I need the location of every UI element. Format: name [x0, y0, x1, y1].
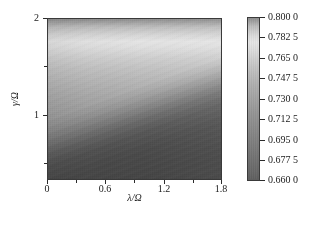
colorbar-tick-0-6775	[260, 160, 265, 161]
colorbar-tick-0-6600	[260, 180, 265, 181]
x-axis-title-text: λ/Ω	[127, 192, 141, 203]
ytick-0-5	[44, 163, 47, 164]
plot-area: 0 0.6 1.2 1.8 2 1	[47, 18, 222, 180]
colorbar-noise	[249, 19, 258, 179]
colorbar-label-0-7125: 0.712 5	[268, 114, 298, 124]
ytick-1-5	[44, 66, 47, 67]
colorbar-label-0-6950: 0.695 0	[268, 135, 298, 145]
ytick-label-2: 2	[34, 13, 39, 23]
y-axis-title: γ/Ω	[9, 92, 20, 106]
colorbar-tick-0-6950	[260, 140, 265, 141]
colorbar-tick-0-7825	[260, 37, 265, 38]
ytick-2	[43, 18, 47, 19]
colorbar-tick-0-8000	[260, 17, 265, 18]
xtick-0-9	[134, 180, 135, 183]
colorbar-gradient	[247, 17, 260, 181]
figure-heatmap: 0 0.6 1.2 1.8 2 1 λ/Ω γ/Ω 0.800 0 0.782 …	[0, 0, 311, 225]
xtick-0-3	[76, 180, 77, 183]
colorbar: 0.800 0 0.782 5 0.765 0 0.747 5 0.730 0 …	[247, 17, 260, 181]
ytick-1	[43, 115, 47, 116]
colorbar-label-0-6600: 0.660 0	[268, 175, 298, 185]
colorbar-label-0-7650: 0.765 0	[268, 53, 298, 63]
xtick-1-5	[193, 180, 194, 183]
plot-frame	[47, 18, 222, 180]
colorbar-label-0-8000: 0.800 0	[268, 12, 298, 22]
colorbar-tick-0-7475	[260, 78, 265, 79]
x-axis-title: λ/Ω	[47, 192, 222, 203]
y-axis-title-text: γ/Ω	[9, 92, 20, 106]
ytick-label-1: 1	[34, 110, 39, 120]
colorbar-label-0-7300: 0.730 0	[268, 94, 298, 104]
colorbar-label-0-6775: 0.677 5	[268, 155, 298, 165]
colorbar-tick-0-7300	[260, 99, 265, 100]
colorbar-tick-0-7125	[260, 119, 265, 120]
colorbar-label-0-7475: 0.747 5	[268, 73, 298, 83]
colorbar-label-0-7825: 0.782 5	[268, 32, 298, 42]
colorbar-tick-0-7650	[260, 58, 265, 59]
heatmap-pixel-noise	[48, 19, 221, 179]
